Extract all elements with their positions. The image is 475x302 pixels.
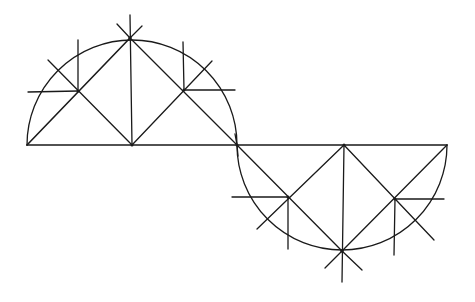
upper-diagonal-left-down [48,60,132,145]
upper-vertical-axis [130,15,132,145]
lower-vertical-axis [342,145,344,282]
lower-apex-point [340,249,344,253]
lower-center-base-point [343,144,346,147]
upper-left-point [77,90,80,93]
lower-right-vertical [394,199,395,255]
lower-left-point [287,196,290,199]
sine-wave-construction-diagram [0,0,475,302]
upper-center-base-point [131,144,134,147]
upper-left-horizontal [28,91,78,92]
upper-diagonal-center-up-right [132,61,212,145]
lower-diagonal-center-down-right [344,145,434,240]
diagram-svg [0,0,475,302]
lower-semicircle-arc [235,134,447,250]
lower-right-point [394,198,397,201]
upper-right-vertical [183,42,184,90]
lower-apex-tick-b [342,251,362,270]
lower-apex-tick-a [325,251,342,268]
upper-right-point [183,89,186,92]
midpoint-crossing [236,144,239,147]
lower-diagonal-center-down-left [257,145,344,229]
upper-apex-point [128,36,132,40]
upper-apex-tick-a [117,24,130,38]
upper-apex-tick-b [130,26,142,38]
